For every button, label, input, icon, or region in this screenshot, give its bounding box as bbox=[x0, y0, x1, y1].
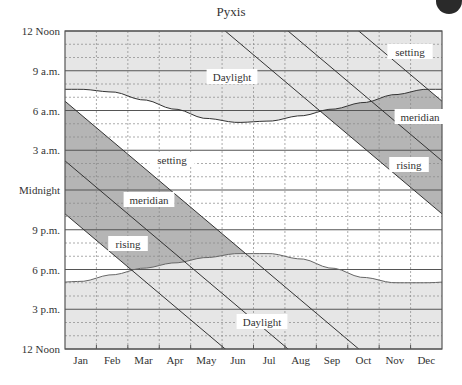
x-tick-label: Jun bbox=[230, 354, 245, 366]
y-tick-label: 9 p.m. bbox=[32, 224, 60, 236]
x-tick-label: Jul bbox=[263, 354, 276, 366]
setting-label-mid: setting bbox=[157, 154, 187, 166]
x-tick-label: Apr bbox=[166, 354, 183, 366]
meridian-label-right: meridian bbox=[400, 111, 440, 123]
daylight-label-top: Daylight bbox=[213, 71, 252, 83]
y-tick-label: 12 Noon bbox=[22, 25, 60, 37]
y-tick-label: 6 a.m. bbox=[33, 105, 60, 117]
x-tick-label: Jan bbox=[73, 354, 88, 366]
y-tick-label: 9 a.m. bbox=[33, 65, 60, 77]
x-tick-label: Sep bbox=[324, 354, 341, 366]
x-tick-label: May bbox=[196, 354, 216, 366]
y-tick-label: 6 p.m. bbox=[32, 264, 60, 276]
pyxis-chart: DaylightDaylightsettingmeridianrisingset… bbox=[0, 0, 462, 385]
setting-label-right: setting bbox=[395, 46, 425, 58]
rising-label-mid: rising bbox=[115, 238, 141, 250]
y-tick-label: 3 p.m. bbox=[32, 303, 60, 315]
rising-label-right: rising bbox=[396, 159, 422, 171]
x-tick-label: Aug bbox=[291, 354, 310, 366]
y-tick-label: 3 a.m. bbox=[33, 144, 60, 156]
x-tick-label: Nov bbox=[385, 354, 404, 366]
x-tick-label: Dec bbox=[417, 354, 435, 366]
daylight-label-bottom: Daylight bbox=[243, 316, 282, 328]
x-tick-label: Oct bbox=[356, 354, 372, 366]
y-tick-label: 12 Noon bbox=[22, 343, 60, 355]
meridian-label-mid: meridian bbox=[129, 194, 169, 206]
x-tick-label: Mar bbox=[134, 354, 152, 366]
x-tick-label: Feb bbox=[104, 354, 121, 366]
y-tick-label: Midnight bbox=[19, 184, 60, 196]
